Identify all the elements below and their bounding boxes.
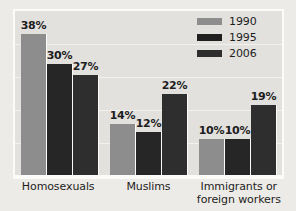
bar-value-label: 14%: [110, 109, 136, 122]
bar[interactable]: [47, 64, 73, 177]
category-label: Muslims: [103, 181, 193, 206]
bar-column[interactable]: 12%: [136, 11, 162, 177]
bar-column[interactable]: 27%: [73, 11, 99, 177]
bar[interactable]: [199, 139, 225, 177]
bar-value-label: 30%: [47, 49, 73, 62]
bar[interactable]: [225, 139, 251, 177]
legend-item[interactable]: 2006: [197, 46, 257, 60]
bar-column[interactable]: 14%: [110, 11, 136, 177]
bar[interactable]: [21, 34, 47, 177]
bar-column[interactable]: 38%: [21, 11, 47, 177]
bar-group-inner: 14%12%22%: [110, 11, 188, 177]
bar-group-inner: 38%30%27%: [21, 11, 99, 177]
bar[interactable]: [110, 124, 136, 177]
category-label-line: Muslims: [103, 181, 193, 194]
bar-value-label: 38%: [21, 19, 47, 32]
category-label-line: Homosexuals: [13, 181, 103, 194]
category-label-line: foreign workers: [194, 194, 284, 207]
legend-label: 1990: [229, 15, 257, 28]
bar-value-label: 19%: [251, 90, 277, 103]
legend-label: 1995: [229, 31, 257, 44]
axis-baseline: [15, 175, 282, 177]
category-label: Immigrants orforeign workers: [194, 181, 284, 206]
bar-value-label: 22%: [162, 79, 188, 92]
bar-value-label: 10%: [225, 124, 251, 137]
bar-column[interactable]: 30%: [47, 11, 73, 177]
bar-value-label: 10%: [199, 124, 225, 137]
legend-swatch: [197, 50, 222, 57]
bar-group: 14%12%22%: [104, 11, 193, 177]
bar[interactable]: [73, 75, 99, 177]
legend-swatch: [197, 18, 222, 25]
legend-item[interactable]: 1995: [197, 30, 257, 44]
bar[interactable]: [251, 105, 277, 177]
bar[interactable]: [136, 132, 162, 177]
bar-chart: 38%30%27%14%12%22%10%10%19% HomosexualsM…: [0, 0, 296, 211]
chart-legend: 199019952006: [197, 14, 257, 62]
legend-swatch: [197, 34, 222, 41]
category-label: Homosexuals: [13, 181, 103, 206]
legend-item[interactable]: 1990: [197, 14, 257, 28]
bar-value-label: 27%: [73, 60, 99, 73]
bar-value-label: 12%: [136, 117, 162, 130]
category-label-line: Immigrants or: [194, 181, 284, 194]
bar-column[interactable]: 22%: [162, 11, 188, 177]
bar-group: 38%30%27%: [15, 11, 104, 177]
category-axis-labels: HomosexualsMuslimsImmigrants orforeign w…: [13, 181, 284, 206]
legend-label: 2006: [229, 47, 257, 60]
bar[interactable]: [162, 94, 188, 177]
